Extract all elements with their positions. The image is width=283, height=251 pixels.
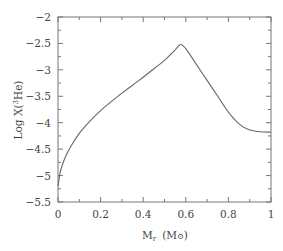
data-series <box>58 44 271 186</box>
x-tick-label: 1 <box>268 208 275 220</box>
x-tick-label: 0.4 <box>135 208 152 220</box>
y-axis-ticks: −2−2.5−3−3.5−4−4.5−5−5.5 <box>26 11 272 208</box>
x-tick-label: 0.8 <box>220 208 237 220</box>
x-axis-ticks: 00.20.40.60.81 <box>55 17 275 220</box>
x-tick-label: 0.2 <box>92 208 109 220</box>
plot-frame <box>58 17 271 202</box>
chart: 00.20.40.60.81 −2−2.5−3−3.5−4−4.5−5−5.5 … <box>0 0 283 251</box>
y-tick-label: −2 <box>36 11 51 23</box>
y-tick-label: −2.5 <box>26 37 52 49</box>
x-tick-label: 0 <box>55 208 62 220</box>
x-axis-title: Mr(M⊙) <box>142 229 188 243</box>
y-tick-label: −3 <box>36 64 51 76</box>
y-tick-label: −4 <box>36 117 52 129</box>
plot-border <box>58 17 271 202</box>
y-tick-label: −3.5 <box>26 90 52 102</box>
y-axis-title: Log X(3He) <box>12 81 24 140</box>
y-tick-label: −5 <box>36 170 51 182</box>
x-tick-label: 0.6 <box>177 208 194 220</box>
y-tick-label: −5.5 <box>26 196 52 208</box>
series-line <box>58 44 271 186</box>
y-tick-label: −4.5 <box>26 143 52 155</box>
